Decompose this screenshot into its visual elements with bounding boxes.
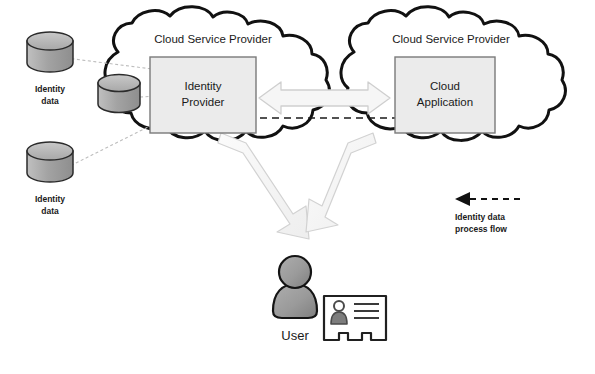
user-avatar: User xyxy=(273,256,317,343)
box-identity-provider-rect xyxy=(150,57,256,133)
datastore-top-left: Identity data xyxy=(27,32,73,106)
cloud-left-label: Cloud Service Provider xyxy=(154,33,272,45)
arrow-app-to-user-shape xyxy=(306,133,376,232)
datastore-bottom-left-label-line2: data xyxy=(41,206,59,216)
legend-arrowhead-icon xyxy=(455,192,470,206)
box-cloud-application[interactable]: Cloud Application xyxy=(395,57,495,133)
arrow-idp-to-user-shape xyxy=(218,133,309,239)
box-identity-provider-line1: Identity xyxy=(184,80,221,92)
legend-label-line1: Identity data xyxy=(455,212,505,222)
datastore-top-left-label-line2: data xyxy=(41,96,59,106)
user-avatar-body xyxy=(273,284,317,318)
datastore-inner xyxy=(98,75,140,113)
datastore-bottom-left: Identity data xyxy=(27,142,73,216)
diagram-svg: Cloud Service Provider Cloud Service Pro… xyxy=(0,0,595,374)
box-identity-provider-line2: Provider xyxy=(182,96,225,108)
box-cloud-application-rect xyxy=(395,57,495,133)
id-card-photo-head xyxy=(334,301,344,311)
id-card-icon xyxy=(324,296,386,340)
id-card-photo-body xyxy=(331,312,347,324)
box-identity-provider[interactable]: Identity Provider xyxy=(150,57,256,133)
box-cloud-application-line1: Cloud xyxy=(430,80,460,92)
user-avatar-head xyxy=(279,256,311,288)
cloud-right-label: Cloud Service Provider xyxy=(392,33,510,45)
datastore-inner-top xyxy=(98,75,140,92)
datastore-top-left-top xyxy=(27,32,73,50)
legend: Identity data process flow xyxy=(455,192,522,234)
diagram-canvas: Cloud Service Provider Cloud Service Pro… xyxy=(0,0,595,374)
legend-label-line2: process flow xyxy=(455,224,507,234)
arrow-app-to-user xyxy=(306,133,376,232)
datastore-top-left-label-line1: Identity xyxy=(35,84,65,94)
datastore-bottom-left-label-line1: Identity xyxy=(35,194,65,204)
user-label: User xyxy=(281,328,309,343)
box-cloud-application-line2: Application xyxy=(417,96,473,108)
datastore-bottom-left-top xyxy=(27,142,73,160)
arrow-idp-to-user xyxy=(218,133,309,239)
